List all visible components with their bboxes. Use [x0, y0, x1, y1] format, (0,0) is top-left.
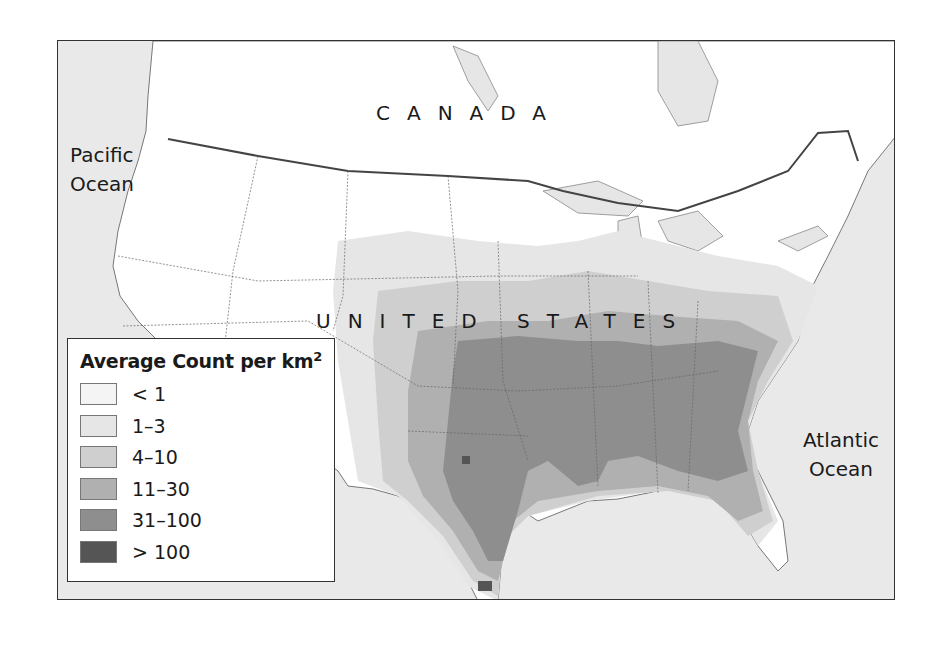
- legend-label: 31–100: [132, 509, 202, 531]
- legend-title-text: Average Count per km: [80, 350, 313, 372]
- canada-label: CANADA: [376, 101, 563, 125]
- legend-item: < 1: [80, 378, 334, 410]
- legend: Average Count per km2 < 1 1–3 4–10 11–30…: [67, 338, 335, 582]
- legend-swatch: [80, 509, 117, 531]
- atlantic-label-line1: Atlantic: [803, 426, 879, 455]
- legend-item: 31–100: [80, 504, 334, 536]
- legend-label: < 1: [132, 383, 166, 405]
- legend-swatch: [80, 541, 117, 563]
- map-frame: CANADA UNITED STATES Pacific Ocean Atlan…: [57, 40, 895, 600]
- pacific-label-line2: Ocean: [70, 170, 134, 199]
- pacific-ocean-label: Pacific Ocean: [70, 141, 134, 199]
- atlantic-ocean-label: Atlantic Ocean: [803, 426, 879, 484]
- legend-item: > 100: [80, 536, 334, 568]
- legend-swatch: [80, 478, 117, 500]
- legend-swatch: [80, 415, 117, 437]
- united-states-label: UNITED STATES: [316, 309, 692, 333]
- legend-swatch: [80, 383, 117, 405]
- legend-item: 4–10: [80, 441, 334, 473]
- legend-swatch: [80, 446, 117, 468]
- legend-item: 11–30: [80, 473, 334, 505]
- legend-label: 11–30: [132, 478, 190, 500]
- legend-item: 1–3: [80, 410, 334, 442]
- legend-label: 1–3: [132, 415, 166, 437]
- legend-title: Average Count per km2: [80, 349, 334, 372]
- legend-title-superscript: 2: [313, 349, 322, 364]
- pacific-label-line1: Pacific: [70, 141, 134, 170]
- atlantic-label-line2: Ocean: [803, 455, 879, 484]
- legend-label: 4–10: [132, 446, 178, 468]
- legend-label: > 100: [132, 541, 190, 563]
